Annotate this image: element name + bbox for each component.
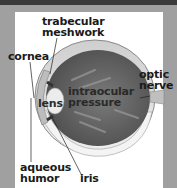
optic-nerve-shape	[150, 90, 164, 104]
label-intraocular-pressure: intraocular pressure	[68, 86, 134, 108]
label-aqueous-humor: aqueous humor	[20, 162, 71, 184]
label-nerve: nerve	[139, 80, 173, 91]
label-iris: iris	[80, 173, 99, 184]
label-humor: humor	[20, 173, 71, 184]
label-lens: lens	[38, 98, 63, 109]
label-pressure: pressure	[68, 97, 134, 108]
label-trabecular-meshwork: trabecular meshwork	[42, 16, 104, 38]
label-cornea: cornea	[8, 51, 49, 62]
label-optic-nerve: optic nerve	[139, 69, 173, 91]
label-meshwork: meshwork	[42, 27, 104, 38]
